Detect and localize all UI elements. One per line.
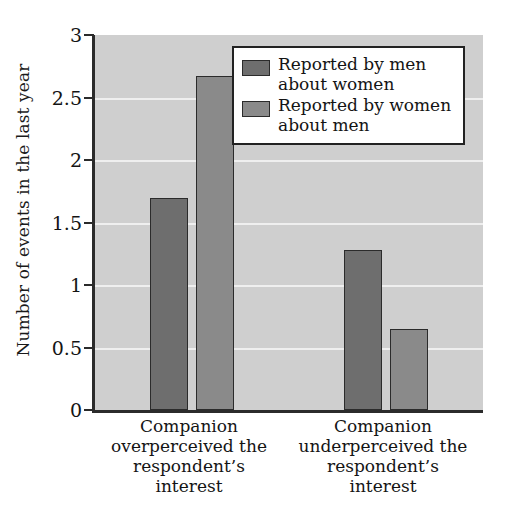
bar-men-group-0: [150, 198, 188, 411]
y-axis-title-text: Number of events in the last year: [13, 64, 33, 357]
x-axis-category-0-line3: respondent’s: [133, 456, 245, 476]
x-axis-category-0-line4: interest: [155, 476, 222, 496]
y-axis-tick-label: 0.5: [52, 338, 82, 357]
bar-women-group-0: [196, 76, 234, 410]
legend-swatch-men: [242, 60, 270, 76]
y-axis-tick-labels: 00.511.522.53: [44, 35, 88, 410]
legend-label-men-line1: Reported by men: [278, 54, 426, 74]
y-axis-tick-label: 1.5: [52, 213, 82, 232]
bar-women-group-1: [390, 329, 428, 410]
legend-item-women: Reported by women about men: [242, 96, 455, 135]
x-axis-category-1-line2: underperceived the: [299, 436, 468, 456]
y-axis-tick-label: 2: [70, 151, 82, 170]
chart-legend: Reported by men about women Reported by …: [232, 46, 465, 145]
legend-label-men: Reported by men about women: [278, 55, 426, 94]
bar-men-group-1: [344, 250, 382, 410]
legend-label-women-line1: Reported by women: [278, 95, 451, 115]
legend-label-women: Reported by women about men: [278, 96, 451, 135]
bar-chart: Number of events in the last year 00.511…: [0, 0, 508, 521]
legend-label-men-line2: about women: [278, 74, 394, 94]
y-axis-tick-label: 1: [70, 276, 82, 295]
x-axis-labels: Companion overperceived the respondent’s…: [92, 416, 480, 521]
y-axis-tick-label: 0: [70, 401, 82, 420]
y-axis-tick-label: 2.5: [52, 88, 82, 107]
legend-item-men: Reported by men about women: [242, 55, 455, 94]
legend-swatch-women: [242, 101, 270, 117]
x-axis-category-1: Companion underperceived the respondent’…: [286, 416, 480, 496]
y-axis-tick-label: 3: [70, 26, 82, 45]
x-axis-category-0: Companion overperceived the respondent’s…: [92, 416, 286, 496]
x-axis-category-0-line2: overperceived the: [111, 436, 267, 456]
x-axis-category-1-line1: Companion: [334, 416, 432, 436]
legend-label-women-line2: about men: [278, 115, 370, 135]
x-axis-category-1-line3: respondent’s: [327, 456, 439, 476]
y-axis-title: Number of events in the last year: [0, 0, 46, 420]
x-axis-category-0-line1: Companion: [140, 416, 238, 436]
x-axis-category-1-line4: interest: [349, 476, 416, 496]
